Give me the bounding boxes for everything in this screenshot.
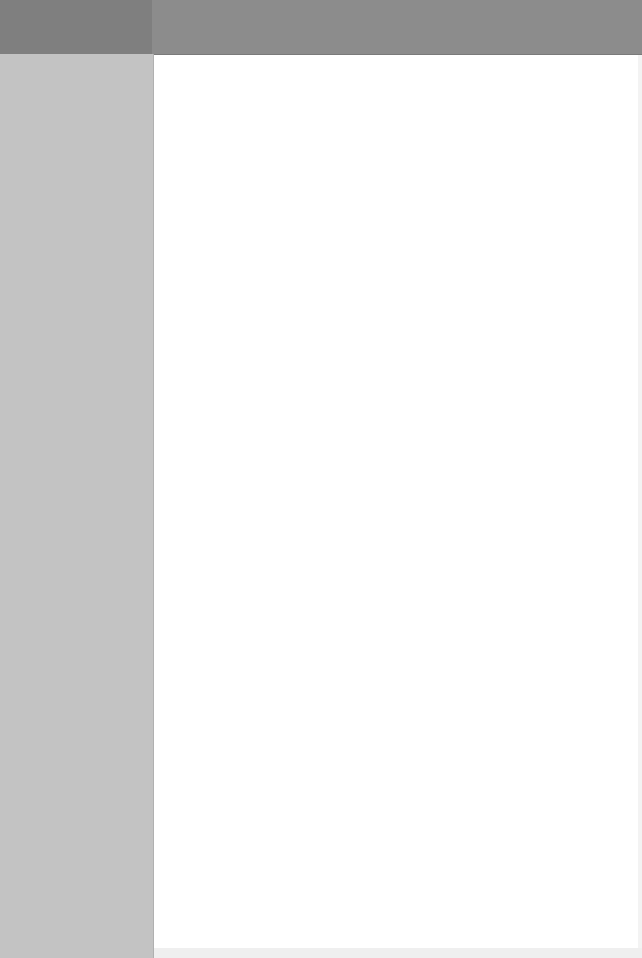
app-window (0, 0, 642, 958)
right-edge-border (638, 55, 642, 958)
sidebar-panel (0, 54, 154, 958)
main-content-area (154, 55, 638, 948)
top-bar-left-section (0, 0, 152, 54)
bottom-edge-border (154, 948, 642, 958)
top-bar-right-section (152, 0, 642, 55)
top-bar (0, 0, 642, 54)
